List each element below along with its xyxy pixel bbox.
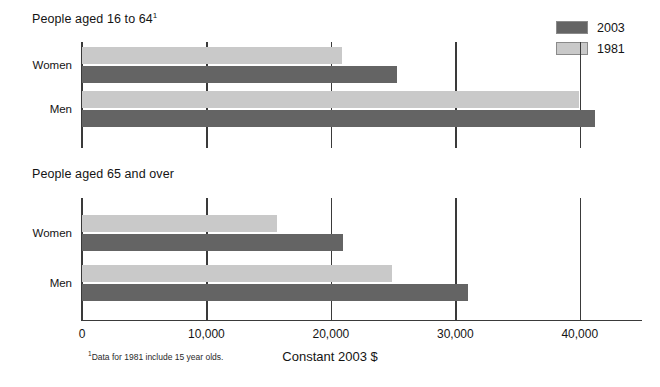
gridline: [580, 42, 582, 148]
gridline: [331, 198, 333, 320]
footnote-marker: 1: [153, 11, 158, 20]
x-tick-label: 30,000: [437, 327, 474, 341]
x-tick-label: 0: [79, 327, 86, 341]
bar-1981-men: [82, 265, 392, 282]
category-label-men: Men: [50, 103, 72, 115]
footnote-text: Data for 1981 include 15 year olds.: [92, 352, 224, 362]
x-tick-label: 20,000: [313, 327, 350, 341]
gridline: [580, 198, 582, 320]
panel-title-text: People aged 65 and over: [32, 167, 174, 181]
chart-figure: People aged 16 to 641 People aged 65 and…: [0, 0, 660, 387]
legend-label-2003: 2003: [597, 21, 625, 35]
x-tick-label: 10,000: [188, 327, 225, 341]
bar-1981-men: [82, 91, 579, 108]
panel-title-seniors: People aged 65 and over: [32, 167, 174, 181]
category-label-men: Men: [50, 277, 72, 289]
x-axis-line: [81, 320, 642, 322]
panel-title-text: People aged 16 to 64: [32, 12, 153, 26]
x-tick-label: 40,000: [561, 327, 598, 341]
bar-2003-women: [82, 66, 397, 83]
legend-item-2003: 2003: [556, 18, 656, 37]
gridline: [455, 198, 457, 320]
bar-1981-women: [82, 47, 342, 64]
bar-2003-men: [82, 284, 468, 301]
category-label-women: Women: [33, 227, 72, 239]
bar-1981-women: [82, 215, 277, 232]
category-label-women: Women: [33, 59, 72, 71]
panel-title-working-age: People aged 16 to 641: [32, 12, 157, 26]
plot-panel-working-age: WomenMen: [82, 42, 642, 148]
chart-footnote: 1Data for 1981 include 15 year olds.: [88, 352, 223, 362]
legend-swatch-2003: [556, 21, 588, 34]
plot-panel-seniors: WomenMen 010,00020,00030,00040,000: [82, 198, 642, 320]
bar-2003-men: [82, 110, 595, 127]
bar-2003-women: [82, 234, 343, 251]
